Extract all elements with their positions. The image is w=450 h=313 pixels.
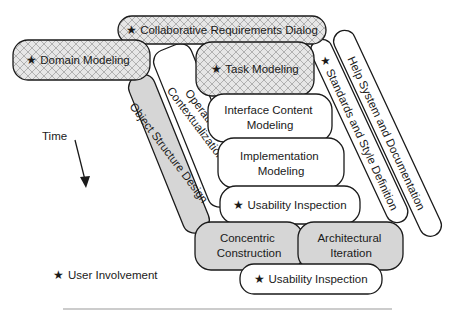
activity-architectural-iteration: Architectural Iteration: [298, 222, 403, 270]
legend-label: ★User Involvement: [53, 269, 158, 281]
usability-inspection-2-label: ★Usability Inspection: [254, 273, 367, 285]
activity-interface-content-modeling: Interface Content Modeling: [208, 94, 332, 142]
usability-inspection-1-label: ★Usability Inspection: [233, 199, 346, 211]
time-arrow-line: [75, 140, 85, 180]
activity-collaborative-requirements: ★Collaborative Requirements Dialog: [118, 16, 326, 44]
collab-req-label: ★Collaborative Requirements Dialog: [126, 24, 318, 36]
time-axis: Time: [42, 130, 90, 188]
activity-concentric-construction: Concentric Construction: [195, 222, 303, 270]
star-icon: ★: [53, 269, 64, 281]
activity-usability-inspection-1: ★Usability Inspection: [220, 186, 360, 224]
activity-implementation-modeling: Implementation Modeling: [218, 138, 344, 188]
activity-task-modeling: ★Task Modeling: [196, 42, 314, 96]
legend: ★User Involvement: [53, 269, 158, 281]
activity-usability-inspection-2: ★Usability Inspection: [240, 264, 382, 294]
arrow-down-icon: [80, 176, 90, 188]
time-label: Time: [42, 130, 67, 142]
domain-modeling-label: ★Domain Modeling: [26, 54, 130, 66]
activity-domain-modeling: ★Domain Modeling: [13, 40, 150, 80]
task-modeling-label: ★Task Modeling: [211, 63, 299, 75]
activity-diagram: Help System and Documentation ★Standards…: [0, 0, 450, 313]
